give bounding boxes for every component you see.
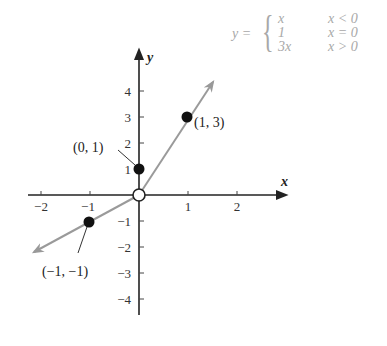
y-tick-label: −2 [117,240,131,255]
y-tick-label: 2 [125,136,132,151]
x-axis: −2 −1 1 2 x [28,174,288,214]
x-tick-label: −1 [81,199,95,214]
y-tick-label: −1 [117,214,131,229]
point-0-1 [134,164,145,175]
y-tick-label: 1 [125,162,132,177]
x-tick-label: −2 [34,199,48,214]
graph-canvas: −2 −1 1 2 x 1 2 3 4 −1 −2 −3 −4 y (0, 1)… [0,0,387,346]
y-axis-label: y [145,50,154,65]
point-neg1-neg1 [84,217,95,228]
x-axis-label: x [280,174,288,189]
y-tick-label: −4 [117,292,131,307]
y-tick-label: 4 [125,84,132,99]
y-tick-label: −3 [117,266,131,281]
x-tick-label: 2 [234,199,241,214]
y-axis: 1 2 3 4 −1 −2 −3 −4 y [117,50,154,315]
point-1-3 [182,112,193,123]
line-y-equals-3x [139,82,213,195]
point-label-0-1: (0, 1) [73,140,104,156]
y-tick-label: 3 [125,110,132,125]
point-label-1-3: (1, 3) [194,115,225,131]
point-label-neg1-neg1: (−1, −1) [42,264,88,280]
open-point-origin [133,189,145,201]
x-tick-label: 1 [185,199,192,214]
